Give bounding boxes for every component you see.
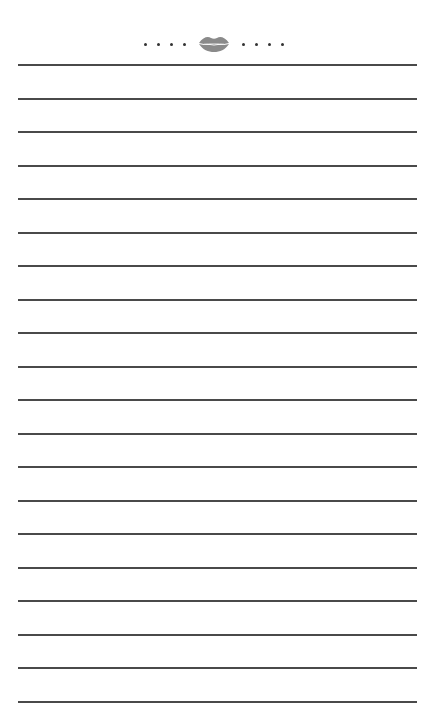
ruled-line <box>18 567 417 569</box>
dot-icon <box>144 43 147 46</box>
ruled-line <box>18 600 417 602</box>
ruled-line <box>18 165 417 167</box>
notepad-page <box>0 0 428 706</box>
left-dots <box>144 43 186 46</box>
ruled-line <box>18 634 417 636</box>
ruled-line <box>18 399 417 401</box>
dot-icon <box>157 43 160 46</box>
dot-icon <box>281 43 284 46</box>
ruled-line <box>18 98 417 100</box>
ruled-line <box>18 332 417 334</box>
header-ornament <box>0 33 428 55</box>
dot-icon <box>268 43 271 46</box>
lips-kiss-icon <box>198 35 230 53</box>
ruled-line <box>18 131 417 133</box>
ruled-line <box>18 366 417 368</box>
ruled-line <box>18 533 417 535</box>
dot-icon <box>170 43 173 46</box>
ruled-line <box>18 299 417 301</box>
ruled-line <box>18 265 417 267</box>
ruled-line <box>18 466 417 468</box>
ruled-line <box>18 198 417 200</box>
dot-icon <box>242 43 245 46</box>
ruled-line <box>18 232 417 234</box>
ruled-line <box>18 667 417 669</box>
dot-icon <box>183 43 186 46</box>
ruled-line <box>18 433 417 435</box>
right-dots <box>242 43 284 46</box>
dot-icon <box>255 43 258 46</box>
ruled-line <box>18 701 417 703</box>
ruled-line <box>18 500 417 502</box>
ruled-line <box>18 64 417 66</box>
